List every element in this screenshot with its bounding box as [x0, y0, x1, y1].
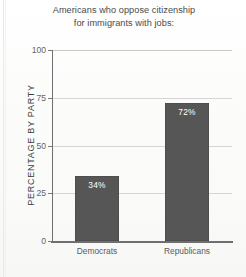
y-tick-label-50: 50 [36, 141, 46, 151]
y-tick-label-25: 25 [36, 188, 46, 198]
category-label-democrats: Democrats [52, 246, 142, 256]
y-axis-line [52, 50, 53, 242]
plot-area: 0255075100 34%72% DemocratsRepublicans [52, 50, 232, 241]
y-tick-label-75: 75 [36, 93, 46, 103]
chart-title: Americans who oppose citizenship for imm… [18, 4, 230, 29]
y-tick-label-0: 0 [41, 236, 46, 246]
gridline-100 [52, 50, 232, 51]
gridline-75 [52, 98, 232, 99]
category-label-republicans: Republicans [142, 246, 232, 256]
bar-democrats: 34% [75, 176, 119, 241]
y-axis-title: PERCENTAGE BY PARTY [26, 65, 36, 225]
bar-value-label-democrats: 34% [75, 180, 119, 190]
bar-republicans: 72% [165, 103, 209, 241]
bar-value-label-republicans: 72% [165, 107, 209, 117]
scan-edge-artifact-secondary [5, 0, 6, 277]
scan-edge-artifact [3, 0, 4, 277]
y-tick-label-100: 100 [32, 45, 46, 55]
chart-title-line-1: Americans who oppose citizenship [18, 4, 230, 17]
chart-title-line-2: for immigrants with jobs: [18, 17, 230, 30]
x-axis-line [51, 241, 233, 243]
bar-chart-figure: Americans who oppose citizenship for imm… [0, 0, 246, 277]
